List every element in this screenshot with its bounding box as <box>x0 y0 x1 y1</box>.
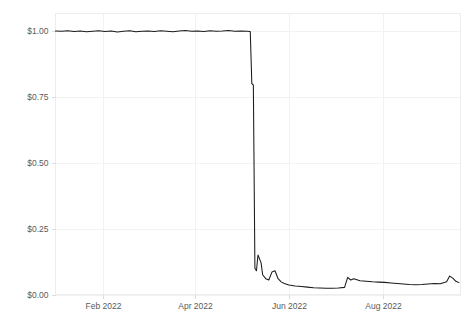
x-axis-tick-label: Jun 2022 <box>272 301 307 311</box>
chart-background <box>0 0 476 335</box>
price-line-chart: $1.00$0.75$0.50$0.25$0.00 Feb 2022Apr 20… <box>0 0 476 335</box>
x-axis-tick-label: Aug 2022 <box>365 301 402 311</box>
y-axis-tick-label: $0.75 <box>27 92 49 102</box>
x-axis-tick-label: Apr 2022 <box>178 301 213 311</box>
y-axis-tick-label: $1.00 <box>27 26 49 36</box>
y-axis-tick-label: $0.50 <box>27 158 49 168</box>
y-axis-tick-label: $0.00 <box>27 290 49 300</box>
x-axis-tick-label: Feb 2022 <box>86 301 122 311</box>
chart-container: $1.00$0.75$0.50$0.25$0.00 Feb 2022Apr 20… <box>0 0 476 335</box>
y-axis-tick-label: $0.25 <box>27 224 49 234</box>
